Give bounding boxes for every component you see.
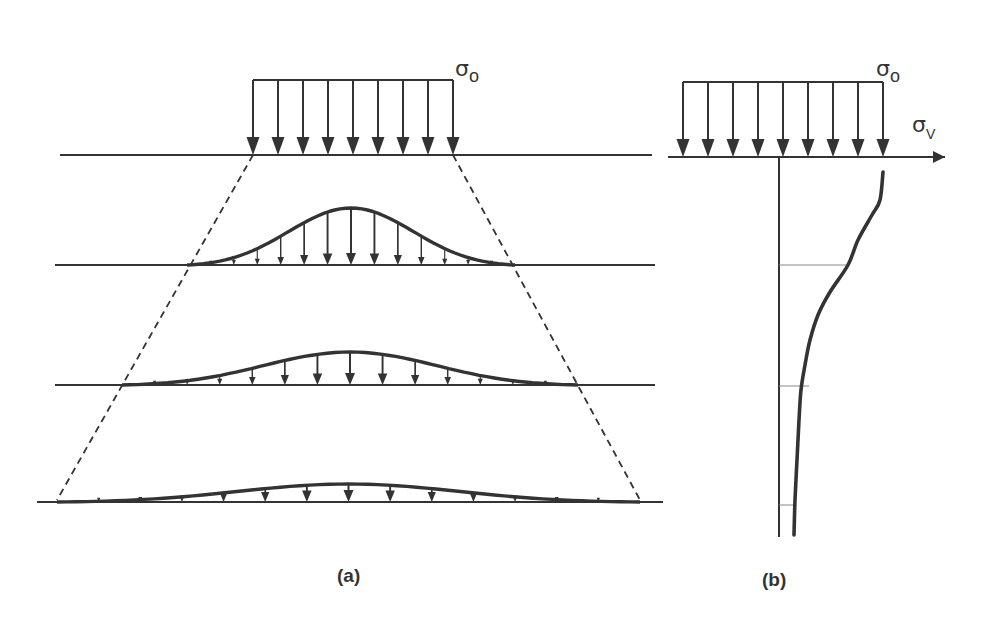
stress-bulb-profiles xyxy=(57,208,640,502)
arrow-head-icon xyxy=(394,255,402,265)
arrow-head-icon xyxy=(777,139,790,157)
arrow-head-icon xyxy=(346,253,356,265)
arrow-head-icon xyxy=(247,137,260,155)
arrow-head-icon xyxy=(323,254,333,265)
arrow-head-icon xyxy=(411,375,419,385)
arrow-head-icon xyxy=(345,373,355,385)
panel-a-caption: (a) xyxy=(337,565,360,586)
arrow-head-icon xyxy=(444,377,451,385)
panel-b-vertical-stress-profile: σo σV (b) xyxy=(668,56,945,590)
arrow-head-icon xyxy=(272,137,285,155)
arrow-head-icon xyxy=(385,491,395,502)
arrow-head-icon xyxy=(428,492,436,502)
stress-depth-axes xyxy=(668,157,945,537)
sigma-o-label-a: σo xyxy=(455,56,479,86)
panel-b-caption: (b) xyxy=(762,569,786,590)
dashed-spread-line xyxy=(453,155,640,500)
arrow-head-icon xyxy=(297,137,310,155)
arrow-head-icon xyxy=(827,139,840,157)
arrow-head-icon xyxy=(281,375,289,385)
arrow-head-icon xyxy=(378,374,388,385)
sigma-v-axis-label: σV xyxy=(912,112,936,142)
sigma-v-distribution-curve xyxy=(794,172,883,535)
arrow-head-icon xyxy=(418,257,425,265)
arrow-head-icon xyxy=(677,139,690,157)
arrow-head-icon xyxy=(261,492,269,502)
arrow-head-icon xyxy=(877,139,890,157)
stress-bulb xyxy=(187,208,515,265)
arrow-head-icon xyxy=(249,377,256,385)
surface-load-arrows xyxy=(247,80,460,155)
arrow-head-icon xyxy=(300,255,308,265)
arrow-head-icon xyxy=(447,137,460,155)
stress-bulb xyxy=(57,484,640,502)
arrow-head-icon xyxy=(347,137,360,155)
arrow-head-icon xyxy=(727,139,740,157)
arrow-head-icon xyxy=(220,494,227,502)
arrow-head-icon xyxy=(372,137,385,155)
arrow-head-icon xyxy=(802,139,815,157)
arrow-head-icon xyxy=(852,139,865,157)
arrow-head-icon xyxy=(302,491,312,502)
arrow-head-icon xyxy=(397,137,410,155)
arrow-head-icon xyxy=(752,139,765,157)
dashed-spread-line xyxy=(57,155,253,500)
arrow-head-icon xyxy=(702,139,715,157)
arrow-head-icon xyxy=(322,137,335,155)
stress-distribution-figure: σo (a) σo σV (b) xyxy=(0,0,982,617)
vertical-stress-curve xyxy=(794,172,883,535)
arrow-head-icon xyxy=(344,490,354,502)
arrow-head-icon xyxy=(370,254,380,265)
panel-a-stress-spread: σo (a) xyxy=(37,56,663,586)
stress-bulb xyxy=(122,352,578,385)
arrow-head-icon xyxy=(422,137,435,155)
arrow-head-icon xyxy=(470,494,477,502)
arrow-head-icon xyxy=(277,257,284,265)
surface-load-arrows xyxy=(677,82,890,157)
arrow-head-icon xyxy=(313,374,323,385)
